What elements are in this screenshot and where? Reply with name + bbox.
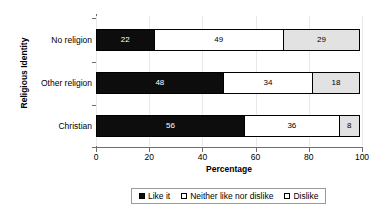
y-axis-title: Religious Identity bbox=[19, 8, 29, 138]
x-axis-tick-label: 100 bbox=[355, 152, 369, 162]
plot-area: 22492948341856368 bbox=[96, 16, 362, 146]
bar-value-label: 49 bbox=[214, 36, 223, 44]
stacked-bar-chart: Religious Identity No religionOther reli… bbox=[0, 0, 392, 219]
y-axis-tick bbox=[92, 62, 96, 63]
bar-segment: 56 bbox=[96, 115, 245, 137]
bar-row: 56368 bbox=[96, 115, 360, 137]
y-axis-tick-labels: No religionOther religionChristian bbox=[34, 16, 92, 146]
bar-segment: 49 bbox=[154, 29, 284, 51]
bar-value-label: 22 bbox=[121, 36, 130, 44]
legend-swatch-icon bbox=[139, 193, 145, 199]
bar-segment: 34 bbox=[223, 72, 313, 94]
legend-item: Neither like nor dislike bbox=[181, 191, 273, 201]
bar-value-label: 8 bbox=[347, 122, 351, 130]
x-axis-line bbox=[96, 147, 363, 148]
bar-row: 224929 bbox=[96, 29, 360, 51]
bar-value-label: 56 bbox=[166, 122, 175, 130]
gridline bbox=[362, 16, 363, 146]
x-axis-tick-label: 60 bbox=[251, 152, 260, 162]
y-axis-tick-label: No religion bbox=[34, 35, 92, 45]
bar-value-label: 34 bbox=[263, 79, 272, 87]
x-axis-tick-label: 80 bbox=[304, 152, 313, 162]
legend-label: Dislike bbox=[293, 191, 318, 201]
y-axis-tick bbox=[92, 105, 96, 106]
bar-value-label: 29 bbox=[317, 36, 326, 44]
x-axis-tick-label: 0 bbox=[94, 152, 99, 162]
legend-item: Like it bbox=[139, 191, 170, 201]
bar-segment: 29 bbox=[283, 29, 360, 51]
bar-segment: 18 bbox=[312, 72, 360, 94]
legend-swatch-icon bbox=[284, 193, 290, 199]
bar-segment: 22 bbox=[96, 29, 155, 51]
y-axis-tick-label: Other religion bbox=[34, 78, 92, 88]
x-axis-tick-label: 20 bbox=[144, 152, 153, 162]
legend-label: Like it bbox=[148, 191, 170, 201]
legend-swatch-icon bbox=[181, 193, 187, 199]
bar-value-label: 36 bbox=[287, 122, 296, 130]
y-axis-tick-label: Christian bbox=[34, 121, 92, 131]
chart-legend: Like itNeither like nor dislikeDislike bbox=[131, 188, 326, 204]
legend-item: Dislike bbox=[284, 191, 318, 201]
y-axis-tick bbox=[92, 18, 96, 19]
x-axis-tick-labels: 020406080100 bbox=[96, 152, 362, 164]
bar-value-label: 48 bbox=[155, 79, 164, 87]
bar-segment: 36 bbox=[244, 115, 340, 137]
legend-label: Neither like nor dislike bbox=[190, 191, 273, 201]
bar-segment: 48 bbox=[96, 72, 224, 94]
bar-value-label: 18 bbox=[332, 79, 341, 87]
bar-segment: 8 bbox=[339, 115, 360, 137]
bar-row: 483418 bbox=[96, 72, 360, 94]
x-axis-tick-label: 40 bbox=[198, 152, 207, 162]
x-axis-title: Percentage bbox=[96, 164, 362, 174]
